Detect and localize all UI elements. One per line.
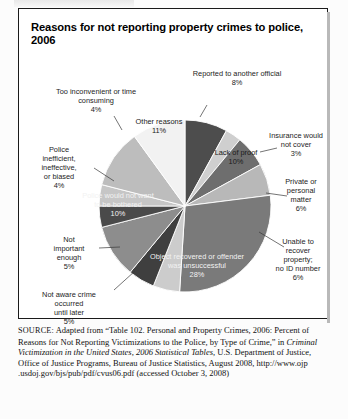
- slice-label-private-or-personal-matter: Private or personal matter 6%: [274, 177, 328, 213]
- slice-label-police-inefficient-ineffective-or-biased: Police inefficient, ineffective, or bias…: [27, 145, 91, 190]
- slice-label-unable-to-recover-property: Unable to recover property; no ID number…: [267, 237, 329, 282]
- slice-label-police-would-not-want-to-be-bothered: Police would not want to be bothered 10%: [65, 191, 171, 218]
- source-label: SOURCE:: [18, 326, 54, 335]
- figure-box: Reasons for not reporting property crime…: [18, 8, 328, 319]
- slice-label-not-important-enough: Not important enough 5%: [41, 235, 97, 271]
- source-note: SOURCE: Adapted from “Table 102. Persona…: [18, 325, 330, 379]
- source-text-part1: Adapted from “Table 102. Personal and Pr…: [18, 325, 309, 347]
- slice-label-reported-to-another-official: Reported to another official 8%: [167, 69, 307, 87]
- slice-label-too-inconvenient-or-time-consuming: Too inconvenient or time consuming 4%: [41, 87, 151, 114]
- figure-page: Reasons for not reporting property crime…: [0, 0, 348, 419]
- slice-label-other-reasons: Other reasons 11%: [117, 117, 201, 135]
- pie-chart: Reported to another official 8% Insuranc…: [19, 9, 329, 320]
- page-top-bleed: [14, 0, 134, 7]
- slice-label-lack-of-proof: Lack of proof 10%: [197, 148, 275, 166]
- leader-reported-official: [200, 105, 207, 117]
- slice-label-not-aware-crime-occurred: Not aware crime occurred until later 5%: [25, 290, 113, 326]
- slice-label-object-recovered-or-offender: Object recovered or offender was unsucce…: [127, 252, 267, 279]
